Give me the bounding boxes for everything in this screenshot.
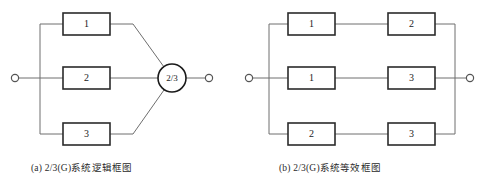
panel-b-group: 1 2 1 3 2 3: [245, 13, 473, 145]
panel-b-bottom-block-1-label: 2: [309, 128, 314, 139]
panel-b-input-terminal-icon: [245, 74, 252, 81]
panel-a-input-terminal-icon: [11, 74, 18, 81]
panel-a-wire-block-1-to-gate: [133, 24, 164, 67]
panel-b-top-block-2-label: 2: [409, 18, 414, 29]
panel-b-bottom-block-2-label: 3: [409, 128, 414, 139]
panel-a-caption: (a) 2/3(G)系统逻辑框图: [31, 160, 132, 174]
panel-a-group: 1 2 3 2/3: [11, 13, 212, 145]
figure-root: 1 2 3 2/3: [0, 0, 484, 180]
panel-b-middle-block-2-label: 3: [409, 72, 414, 83]
panel-a-output-terminal-icon: [205, 74, 212, 81]
panel-a-voting-gate-label: 2/3: [166, 73, 178, 83]
panel-a-block-3-label: 3: [84, 128, 89, 139]
panel-b-output-terminal-icon: [466, 74, 473, 81]
panel-b-middle-block-1-label: 1: [309, 72, 314, 83]
panel-b-caption: (b) 2/3(G)系统等效框图: [279, 160, 381, 174]
panel-b-top-block-1-label: 1: [309, 18, 314, 29]
panel-a-block-1-label: 1: [84, 18, 89, 29]
panel-a-wire-block-3-to-gate: [133, 90, 164, 134]
reliability-block-diagram: 1 2 3 2/3: [0, 0, 484, 180]
panel-a-block-2-label: 2: [84, 72, 89, 83]
